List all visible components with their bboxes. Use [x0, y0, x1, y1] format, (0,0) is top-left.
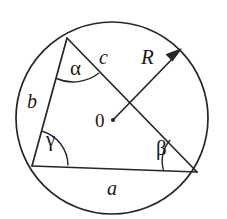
geometry-figure: c b a α γ β R 0	[0, 0, 227, 219]
label-side-b: b	[27, 91, 37, 111]
triangle-side-c	[67, 38, 197, 172]
label-radius-R: R	[141, 47, 154, 68]
radius-arrow-head	[167, 49, 182, 61]
label-angle-alpha: α	[70, 58, 81, 79]
label-center-origin: 0	[95, 111, 105, 130]
label-angle-gamma: γ	[46, 129, 55, 150]
center-point-dot	[111, 118, 115, 122]
label-side-c: c	[99, 47, 108, 67]
label-angle-beta: β	[156, 138, 167, 159]
triangle-side-a	[32, 166, 197, 172]
label-side-a: a	[107, 178, 117, 198]
